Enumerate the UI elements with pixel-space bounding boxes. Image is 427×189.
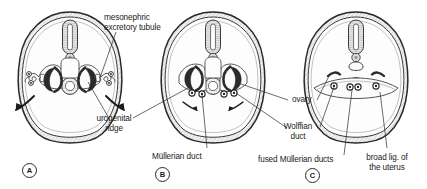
label-mullerian-duct: Müllerian duct [152,152,202,162]
panel-letter-c: C [305,168,320,183]
panel-b-drawing [161,12,265,143]
label-broad-ligament-of-uterus: broad lig. of the uterus [358,153,416,173]
label-mesonephric-excretory-tubule: mesonephric excretory tubule [104,13,161,33]
panel-letter-b: B [155,167,170,182]
label-urogenital-ridge: urogenital ridge [88,114,140,134]
panel-letter-a: A [22,163,37,178]
label-ovary: ovary [292,95,312,105]
embryology-figure: mesonephric excretory tubule urogenital … [0,0,427,189]
label-wolffian-duct: Wolffian duct [276,122,320,142]
label-fused-mullerian-ducts: fused Müllerian ducts [258,155,333,165]
